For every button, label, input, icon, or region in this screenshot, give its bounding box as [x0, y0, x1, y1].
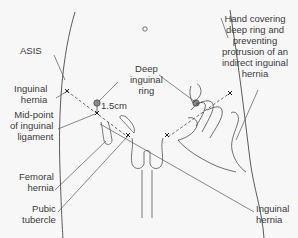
- leader-inguinal-hernia-right: [100, 124, 254, 212]
- marker-pubic-tubercle-icon: [126, 133, 130, 137]
- umbilicus-icon: [143, 27, 147, 31]
- leader-deep-ring-right: [159, 75, 194, 101]
- leader-pubic-tubercle: [58, 137, 127, 212]
- leader-femoral-hernia: [55, 141, 106, 190]
- marker-right-asis-icon: [228, 91, 232, 95]
- leader-midpoint: [58, 114, 95, 129]
- label-inguinal-hernia-right: Inguinal hernia: [256, 203, 289, 225]
- inguinal-anatomy-diagram: ASIS Inguinal hernia Mid-point of inguin…: [0, 0, 298, 238]
- label-femoral-hernia: Femoral hernia: [19, 171, 54, 193]
- label-pubic-tubercle: Pubic tubercle: [22, 203, 56, 225]
- marker-pubic-tubercle-right-icon: [165, 133, 169, 137]
- inguinal-bulge-left: [120, 116, 135, 133]
- inguinal-ligament-right: [168, 93, 230, 137]
- leader-deep-ring-left: [99, 82, 118, 101]
- label-inguinal-hernia-left: Inguinal hernia: [14, 83, 47, 105]
- label-midpoint-inguinal-ligament: Mid-point of inguinal ligament: [10, 109, 53, 142]
- examining-hand: [178, 84, 246, 172]
- genitalia-outline: [131, 138, 163, 169]
- label-hand-covering: Hand covering deep ring and preventing p…: [222, 13, 288, 79]
- label-deep-inguinal-ring: Deep inguinal ring: [130, 63, 163, 96]
- label-distance-1-5cm: 1.5cm: [101, 100, 127, 111]
- label-asis: ASIS: [20, 45, 42, 56]
